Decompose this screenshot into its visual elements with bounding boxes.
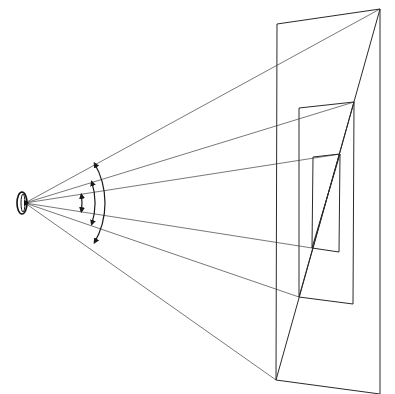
eye-lens-icon [17,192,29,214]
small-angle-arc [81,194,82,212]
visual-angle-diagram [0,0,395,394]
large-angle-arc [94,163,105,243]
diagram-svg [0,0,395,394]
visual-angle-arcs [81,163,105,243]
sight-ray [25,102,354,203]
sight-ray [25,203,312,248]
plane-large [276,9,380,394]
sight-ray [25,154,340,203]
sight-ray [25,9,380,203]
plane-diagonals [276,9,380,380]
sight-ray [25,203,299,297]
medium-angle-arc [92,181,95,224]
sight-rays [25,9,380,380]
perspective-planes [276,9,380,394]
sight-ray [25,203,276,380]
plane-diagonal [312,154,340,248]
